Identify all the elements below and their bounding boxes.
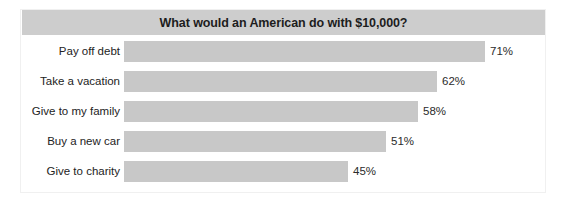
bar-category-label: Give to my family bbox=[32, 101, 120, 122]
bar-track bbox=[124, 161, 348, 182]
bar-track bbox=[124, 71, 437, 92]
bar-category-label: Take a vacation bbox=[40, 71, 120, 92]
bar-track bbox=[124, 41, 485, 62]
chart-title: What would an American do with $10,000? bbox=[160, 16, 408, 30]
bar-value-label: 51% bbox=[391, 131, 414, 152]
bar-value-label: 62% bbox=[442, 71, 465, 92]
bar-category-label: Pay off debt bbox=[59, 41, 120, 62]
bar-fill bbox=[124, 161, 348, 182]
bar-value-label: 45% bbox=[353, 161, 376, 182]
bar-value-label: 58% bbox=[423, 101, 446, 122]
bar-fill bbox=[124, 71, 437, 92]
bar-track bbox=[124, 101, 418, 122]
bar-row: Take a vacation 62% bbox=[0, 71, 566, 92]
bar-row: Give to my family 58% bbox=[0, 101, 566, 122]
bar-value-label: 71% bbox=[490, 41, 513, 62]
bar-category-label: Buy a new car bbox=[47, 131, 120, 152]
bar-category-label: Give to charity bbox=[47, 161, 121, 182]
bar-row: Pay off debt 71% bbox=[0, 41, 566, 62]
bar-row: Give to charity 45% bbox=[0, 161, 566, 182]
bar-row: Buy a new car 51% bbox=[0, 131, 566, 152]
bar-track bbox=[124, 131, 386, 152]
bar-fill bbox=[124, 101, 418, 122]
chart-title-band: What would an American do with $10,000? bbox=[22, 10, 545, 35]
bar-fill bbox=[124, 131, 386, 152]
bar-fill bbox=[124, 41, 485, 62]
chart-plot-area: Pay off debt 71% Take a vacation 62% Giv… bbox=[0, 41, 566, 191]
